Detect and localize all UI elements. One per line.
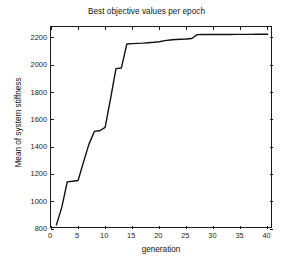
x-tick-label: 10 <box>100 231 108 240</box>
y-tick-mark <box>270 174 273 175</box>
x-tick-label: 30 <box>208 231 216 240</box>
y-tick-mark <box>51 119 54 120</box>
x-tick-label: 20 <box>154 231 162 240</box>
x-tick-label: 25 <box>181 231 189 240</box>
x-axis-tick-labels: 0510152025303540 <box>0 231 293 243</box>
x-tick-mark <box>78 27 79 30</box>
y-tick-mark <box>270 147 273 148</box>
data-series-line <box>56 34 267 225</box>
y-tick-mark <box>270 65 273 66</box>
x-tick-mark <box>186 27 187 30</box>
y-tick-mark <box>270 37 273 38</box>
x-tick-label: 40 <box>262 231 270 240</box>
x-tick-mark <box>132 27 133 30</box>
y-tick-mark <box>51 174 54 175</box>
y-tick-label: 2000 <box>31 60 47 69</box>
x-tick-mark <box>213 27 214 30</box>
y-tick-mark <box>270 201 273 202</box>
x-tick-mark <box>132 226 133 229</box>
x-tick-mark <box>267 27 268 30</box>
y-tick-label: 1000 <box>31 196 47 205</box>
x-tick-mark <box>159 27 160 30</box>
y-tick-label: 1200 <box>31 169 47 178</box>
y-tick-mark <box>270 119 273 120</box>
x-tick-mark <box>105 226 106 229</box>
y-tick-label: 2200 <box>31 32 47 41</box>
y-tick-label: 1400 <box>31 142 47 151</box>
y-tick-mark <box>51 92 54 93</box>
x-tick-label: 5 <box>75 231 79 240</box>
y-tick-mark <box>270 92 273 93</box>
y-tick-label: 1600 <box>31 114 47 123</box>
x-tick-mark <box>267 226 268 229</box>
chart-figure: Best objective values per epoch Mean of … <box>0 0 293 271</box>
y-tick-mark <box>51 201 54 202</box>
y-tick-mark <box>51 65 54 66</box>
y-tick-mark <box>51 37 54 38</box>
plot-area <box>50 26 272 228</box>
x-tick-mark <box>78 226 79 229</box>
x-tick-mark <box>105 27 106 30</box>
x-tick-mark <box>240 27 241 30</box>
x-tick-mark <box>159 226 160 229</box>
x-tick-label: 35 <box>235 231 243 240</box>
y-tick-label: 1800 <box>31 87 47 96</box>
x-tick-mark <box>51 226 52 229</box>
x-tick-mark <box>240 226 241 229</box>
y-tick-mark <box>270 229 273 230</box>
x-tick-mark <box>213 226 214 229</box>
x-axis-label: generation <box>50 245 272 254</box>
x-tick-label: 15 <box>127 231 135 240</box>
x-tick-mark <box>186 226 187 229</box>
x-tick-label: 0 <box>48 231 52 240</box>
y-tick-mark <box>51 147 54 148</box>
x-tick-mark <box>51 27 52 30</box>
plot-svg <box>51 27 273 229</box>
